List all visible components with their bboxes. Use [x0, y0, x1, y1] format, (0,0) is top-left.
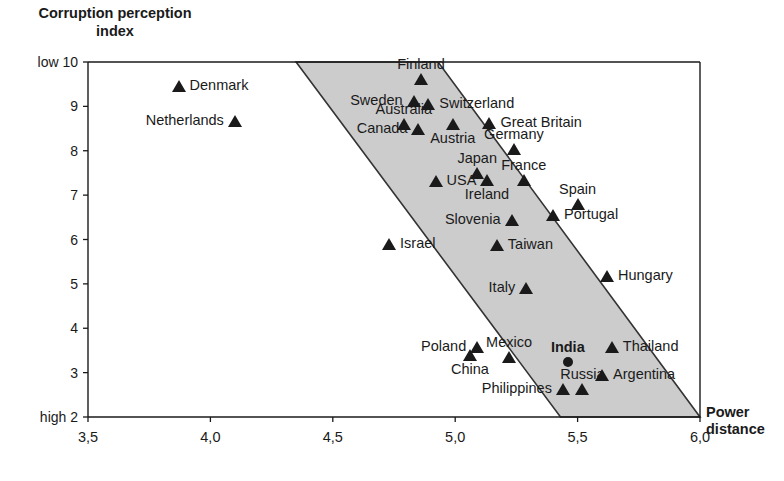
y-tick-7: 7: [36, 187, 78, 203]
y-tick-6: 6: [36, 232, 78, 248]
triangle-marker-icon: [556, 383, 570, 395]
triangle-marker-icon: [446, 118, 460, 130]
triangle-marker-icon: [502, 351, 516, 363]
triangle-marker-icon: [382, 238, 396, 250]
point-label-mexico: Mexico: [486, 335, 532, 350]
point-label-denmark: Denmark: [190, 78, 249, 93]
point-label-slovenia: Slovenia: [445, 211, 501, 226]
y-tick-8: 8: [36, 143, 78, 159]
point-label-israel: Israel: [400, 236, 435, 251]
point-label-germany: Germany: [484, 126, 544, 141]
point-label-switzerland: Switzerland: [439, 96, 514, 111]
point-label-austria: Austria: [430, 131, 475, 146]
triangle-marker-icon: [546, 209, 560, 221]
triangle-marker-icon: [505, 214, 519, 226]
x-tick-4-5: 4,5: [303, 429, 363, 445]
point-label-japan: Japan: [457, 151, 497, 166]
triangle-marker-icon: [411, 123, 425, 135]
y-tick-10: low 10: [30, 54, 78, 70]
y-tick-5: 5: [36, 276, 78, 292]
point-label-portugal: Portugal: [564, 207, 618, 222]
point-label-usa: USA: [447, 173, 477, 188]
triangle-marker-icon: [480, 174, 494, 186]
y-tick-2: high 2: [30, 409, 78, 425]
point-label-hungary: Hungary: [618, 268, 673, 283]
x-tick-6-0: 6,0: [670, 429, 730, 445]
point-label-australia: Australia: [376, 102, 432, 117]
x-tick-5-0: 5,0: [425, 429, 485, 445]
point-label-poland: Poland: [421, 339, 466, 354]
triangle-marker-icon: [517, 174, 531, 186]
point-label-india: India: [551, 339, 585, 354]
triangle-marker-icon: [507, 143, 521, 155]
triangle-marker-icon: [429, 175, 443, 187]
point-label-taiwan: Taiwan: [508, 237, 553, 252]
point-label-thailand: Thailand: [623, 339, 679, 354]
x-tick-4-0: 4,0: [180, 429, 240, 445]
point-label-canada: Canada: [357, 121, 408, 136]
point-label-argentina: Argentina: [613, 367, 675, 382]
triangle-marker-icon: [414, 73, 428, 85]
point-label-france: France: [501, 157, 546, 172]
point-label-italy: Italy: [489, 280, 516, 295]
triangle-marker-icon: [228, 115, 242, 127]
point-label-ireland: Ireland: [465, 187, 509, 202]
triangle-marker-icon: [600, 270, 614, 282]
triangle-marker-icon: [490, 239, 504, 251]
x-tick-5-5: 5,5: [548, 429, 608, 445]
point-label-finland: Finland: [397, 57, 445, 72]
triangle-marker-icon: [172, 80, 186, 92]
triangle-marker-icon: [519, 282, 533, 294]
point-label-spain: Spain: [559, 182, 596, 197]
y-tick-3: 3: [36, 365, 78, 381]
point-label-china: China: [451, 362, 489, 377]
point-label-philippines: Philippines: [482, 381, 552, 396]
point-label-netherlands: Netherlands: [146, 112, 224, 127]
y-tick-9: 9: [36, 98, 78, 114]
triangle-marker-icon: [605, 341, 619, 353]
triangle-marker-icon: [575, 383, 589, 395]
y-tick-4: 4: [36, 320, 78, 336]
point-label-russia: Russia: [560, 367, 604, 382]
triangle-marker-icon: [463, 349, 477, 361]
x-tick-3-5: 3,5: [58, 429, 118, 445]
chart-figure: Corruption perception index Power distan…: [0, 0, 784, 481]
circle-marker-icon: [563, 357, 573, 367]
